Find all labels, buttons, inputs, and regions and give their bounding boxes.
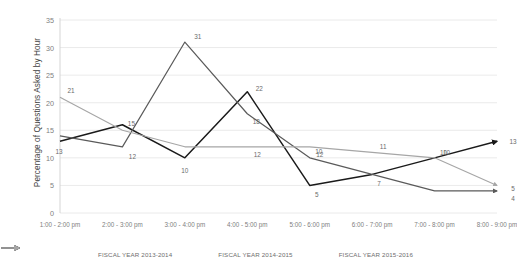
chart-legend: FISCAL YEAR 2013-2014FISCAL YEAR 2014-20… [0, 243, 511, 265]
data-label: 5 [511, 185, 515, 192]
data-label: 21 [67, 87, 74, 94]
data-label: 12 [316, 150, 323, 157]
series-lines [60, 42, 497, 191]
x-tick-label: 1:00 - 2:00 pm [40, 221, 81, 228]
x-tick-label: 4:00 - 5:00 pm [227, 221, 268, 228]
series-line [60, 92, 497, 186]
legend-item[interactable]: FISCAL YEAR 2015-2016 [339, 251, 413, 258]
x-tick-label: 6:00 - 7:00 pm [352, 221, 393, 228]
gridlines [60, 20, 497, 213]
data-label: 7 [377, 180, 381, 187]
data-label: 31 [194, 33, 201, 40]
x-tick-label: 3:00 - 4:00 pm [165, 221, 206, 228]
data-label: 13 [55, 148, 62, 155]
legend-item[interactable]: FISCAL YEAR 2013-2014 [98, 251, 172, 258]
data-label: 18 [253, 117, 260, 124]
data-label: 10 [443, 148, 450, 155]
legend-label: FISCAL YEAR 2015-2016 [339, 251, 413, 258]
data-label: 5 [315, 191, 319, 198]
data-label: 12 [254, 150, 261, 157]
data-label: 13 [509, 138, 516, 145]
series-line [60, 42, 497, 191]
x-tick-label: 7:00 - 8:00 pm [414, 221, 455, 228]
data-label: 11 [380, 143, 387, 150]
data-label: 10 [181, 166, 188, 173]
legend-arrow-icon [0, 243, 26, 252]
data-label: 4 [511, 194, 515, 201]
x-tick-label: 8:00 - 9:00 pm [477, 221, 517, 228]
legend-label: FISCAL YEAR 2013-2014 [98, 251, 172, 258]
x-tick-label: 5:00 - 6:00 pm [289, 221, 330, 228]
data-label: 22 [256, 84, 263, 91]
x-tick-label: 2:00 - 3:00 pm [102, 221, 143, 228]
legend-label: FISCAL YEAR 2014-2015 [218, 251, 292, 258]
data-label: 15 [128, 120, 135, 127]
data-label: 12 [129, 152, 136, 159]
legend-item[interactable]: FISCAL YEAR 2014-2015 [218, 251, 292, 258]
